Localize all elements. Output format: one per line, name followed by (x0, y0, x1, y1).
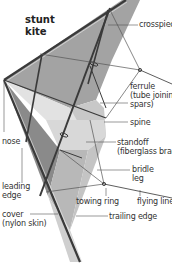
stunt-kite-diagram: stunt kite crosspiece ferrule (tube join… (0, 0, 172, 264)
diagram-title: stunt kite (25, 14, 55, 38)
lower-flying-line (104, 184, 172, 198)
label-towing-ring: towing ring (76, 197, 119, 206)
ferrule-line-2: (tube joining (130, 91, 172, 100)
label-spine: spine (130, 118, 150, 127)
label-trailing-edge: trailing edge (109, 212, 157, 221)
label-flying-line: flying line (137, 197, 172, 206)
ferrule-line-3: spars) (130, 100, 172, 109)
label-standoff: standoff (fiberglass brace) (117, 138, 172, 156)
label-leading-edge: leading edge (2, 182, 30, 200)
label-nose: nose (2, 137, 20, 146)
ferrule-line-1: ferrule (130, 82, 172, 91)
bridle-line-2: leg (132, 174, 154, 183)
standoff-line-1: standoff (117, 138, 172, 147)
leading-edge-line-2: edge (2, 191, 30, 200)
standoff-line-2: (fiberglass brace) (117, 147, 172, 156)
leading-edge-line-1: leading (2, 182, 30, 191)
title-line-2: kite (25, 26, 55, 38)
label-bridle-leg: bridle leg (132, 165, 154, 183)
bridle-line-1: bridle (132, 165, 154, 174)
label-ferrule: ferrule (tube joining spars) (130, 82, 172, 109)
label-crosspiece: crosspiece (139, 20, 172, 29)
title-line-1: stunt (25, 14, 55, 26)
cover-line-2: (nylon skin) (2, 219, 46, 228)
label-cover: cover (nylon skin) (2, 210, 46, 228)
cover-line-1: cover (2, 210, 46, 219)
